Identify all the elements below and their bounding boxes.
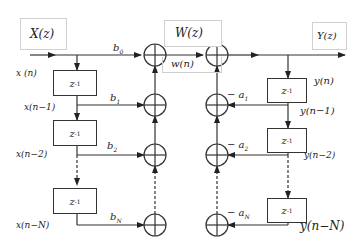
delay-box-left-2: z-1 [53,120,97,146]
w-n-box: w(n) [162,57,222,73]
w-z-label: W(z) [175,27,203,39]
summer-right-N [206,214,228,236]
coeff-b1: b1 [110,93,120,105]
summer-left-2 [144,144,166,166]
coeff-bN: bN [110,212,122,224]
delay-box-right-2: z-1 [267,128,307,153]
x-z-box: X(z) [20,18,67,50]
signal-y-n-N: y(n−N) [300,220,344,232]
coeff-a1: − a1 [227,90,248,102]
signal-x-n: x (n) [16,69,37,78]
signal-x-n-N: x(n−N) [16,221,49,230]
summer-left-1 [144,94,166,116]
y-z-label: Y(z) [317,31,337,41]
w-n-label: w(n) [171,59,194,69]
signal-y-n-2: y(n−2) [304,151,335,160]
delay-box-left-N: z-1 [53,188,97,214]
delay-box-right-1: z-1 [267,78,307,103]
coeff-b2: b2 [107,141,117,153]
coeff-a2: − a2 [227,140,248,152]
x-z-label: X(z) [30,28,54,40]
summer-right-2 [206,144,228,166]
coeff-b0: b0 [113,43,123,55]
signal-x-n-2: x(n−2) [16,150,47,159]
coeff-aN: − aN [227,208,250,220]
w-z-box: W(z) [164,20,222,47]
iir-filter-diagram: X(z) W(z) w(n) Y(z) z-1 z-1 z-1 z-1 z-1 … [0,0,356,250]
signal-y-n-1: y(n−1) [300,106,335,116]
signal-y-n: y(n) [314,76,334,86]
delay-box-left-1: z-1 [53,70,97,96]
summer-left-N [144,214,166,236]
summer-right-1 [206,94,228,116]
y-z-box: Y(z) [312,22,347,50]
signal-x-n-1: x(n−1) [24,103,55,112]
